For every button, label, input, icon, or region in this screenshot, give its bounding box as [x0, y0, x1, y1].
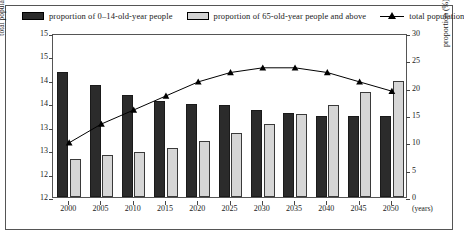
legend-label-children: proportion of 0–14-old-year people — [49, 11, 173, 21]
y-right-tickmark — [406, 35, 410, 36]
y-right-tick-label: 10 — [412, 139, 434, 147]
line-series-layer — [53, 35, 408, 199]
y-left-tick-label: 14 — [26, 100, 48, 108]
y-right-tickmark — [406, 144, 410, 145]
y-right-tickmark — [406, 117, 410, 118]
x-tick-label-2050: 2050 — [383, 205, 399, 213]
dark-square-swatch-icon — [22, 12, 44, 20]
x-tickmark — [100, 201, 101, 205]
y-right-tickmark — [406, 90, 410, 91]
x-tickmark — [294, 201, 295, 205]
chart-legend: proportion of 0–14-old-year people propo… — [22, 9, 442, 23]
total-population-line — [69, 68, 392, 143]
y-right-tickmark — [406, 172, 410, 173]
x-tick-label-2020: 2020 — [189, 205, 205, 213]
legend-item-children: proportion of 0–14-old-year people — [22, 11, 173, 21]
x-axis-ticks: 2000200520102015202020252030203520402045… — [52, 202, 407, 214]
x-tick-label-2030: 2030 — [254, 205, 270, 213]
y-left-tick-label: 12 — [26, 194, 48, 202]
y-left-tickmark — [49, 176, 53, 177]
x-tick-label-2035: 2035 — [286, 205, 302, 213]
x-tickmark — [165, 201, 166, 205]
x-tickmark — [262, 201, 263, 205]
y-left-tick-label: 13 — [26, 124, 48, 132]
x-tick-label-2045: 2045 — [351, 205, 367, 213]
y-left-tickmark — [49, 82, 53, 83]
y-left-tickmark — [49, 58, 53, 59]
y-right-tick-label: 0 — [412, 194, 434, 202]
x-tickmark — [197, 201, 198, 205]
y-right-tickmark — [406, 62, 410, 63]
x-tickmark — [133, 201, 134, 205]
legend-item-elderly: proportion of 65-old-year people and abo… — [187, 11, 367, 21]
y-right-tick-label: 25 — [412, 57, 434, 65]
y-axis-right-ticks: 302520151050 — [412, 28, 434, 204]
y-axis-left-title: total population (a hundred million peop… — [0, 0, 6, 46]
y-left-tick-label: 13 — [26, 147, 48, 155]
y-right-tick-label: 30 — [412, 30, 434, 38]
x-tick-label-2040: 2040 — [318, 205, 334, 213]
x-tickmark — [391, 201, 392, 205]
x-tick-label-2005: 2005 — [92, 205, 108, 213]
line-marker-2000 — [66, 139, 73, 145]
line-marker-2010 — [130, 107, 137, 113]
y-left-tickmark — [49, 152, 53, 153]
y-left-tick-label: 12 — [26, 171, 48, 179]
y-left-tick-label: 15 — [26, 53, 48, 61]
y-left-tick-label: 14 — [26, 77, 48, 85]
x-tick-label-2015: 2015 — [157, 205, 173, 213]
line-marker-2015 — [163, 93, 170, 99]
x-tickmark — [68, 201, 69, 205]
x-axis-units-label: (years) — [412, 204, 433, 213]
x-tickmark — [359, 201, 360, 205]
plot-area — [52, 34, 407, 198]
y-axis-left-ticks: 1515141413131212 — [26, 28, 48, 204]
y-left-tickmark — [49, 129, 53, 130]
x-tick-label-2025: 2025 — [222, 205, 238, 213]
light-square-swatch-icon — [187, 12, 209, 20]
x-tick-label-2010: 2010 — [125, 205, 141, 213]
x-tick-label-2000: 2000 — [60, 205, 76, 213]
y-left-tickmark — [49, 35, 53, 36]
y-right-tick-label: 5 — [412, 167, 434, 175]
legend-label-elderly: proportion of 65-old-year people and abo… — [214, 11, 367, 21]
y-axis-right-title: proportion (%) — [441, 0, 450, 78]
line-triangle-marker-icon — [380, 12, 404, 20]
y-right-tick-label: 15 — [412, 112, 434, 120]
y-right-tickmark — [406, 199, 410, 200]
x-tickmark — [230, 201, 231, 205]
legend-item-total-population: total population — [380, 11, 464, 21]
y-right-tick-label: 20 — [412, 85, 434, 93]
y-left-tick-label: 15 — [26, 30, 48, 38]
line-marker-2005 — [98, 121, 105, 127]
y-left-tickmark — [49, 105, 53, 106]
legend-label-total-population: total population — [409, 11, 464, 21]
x-tickmark — [326, 201, 327, 205]
y-left-tickmark — [49, 199, 53, 200]
